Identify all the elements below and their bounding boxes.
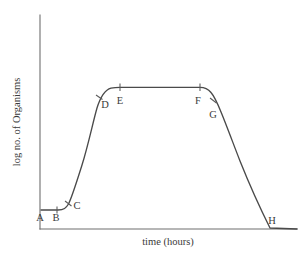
y-axis-title: log no. of Organisms xyxy=(11,78,22,166)
point-label-f: F xyxy=(195,95,201,106)
growth-curve-chart: A B C D E F G H log no. of Organisms tim… xyxy=(0,0,304,253)
point-label-g: G xyxy=(209,109,217,120)
point-label-a: A xyxy=(36,212,44,223)
point-label-b: B xyxy=(52,212,59,223)
x-axis-title: time (hours) xyxy=(142,236,194,248)
point-label-h: H xyxy=(268,215,276,226)
growth-curve-figure: A B C D E F G H log no. of Organisms tim… xyxy=(0,0,304,253)
point-label-d: D xyxy=(101,99,109,110)
point-label-c: C xyxy=(73,200,80,211)
point-label-e: E xyxy=(117,95,123,106)
